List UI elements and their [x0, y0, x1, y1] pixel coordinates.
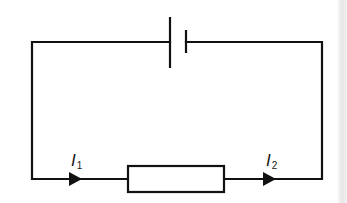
circuit-diagram — [0, 0, 347, 203]
wire-top-left — [32, 42, 170, 179]
resistor-icon — [128, 166, 224, 192]
current-subscript-1: 1 — [77, 160, 83, 171]
current-symbol-1: I — [71, 151, 76, 170]
current-subscript-2: 2 — [272, 160, 278, 171]
battery-icon — [170, 17, 186, 68]
current-arrow-1-icon — [69, 172, 82, 186]
current-label-1: I1 — [71, 152, 82, 171]
current-arrow-2-icon — [263, 172, 276, 186]
wire-top-right — [186, 42, 322, 179]
current-symbol-2: I — [266, 151, 271, 170]
current-label-2: I2 — [266, 152, 277, 171]
